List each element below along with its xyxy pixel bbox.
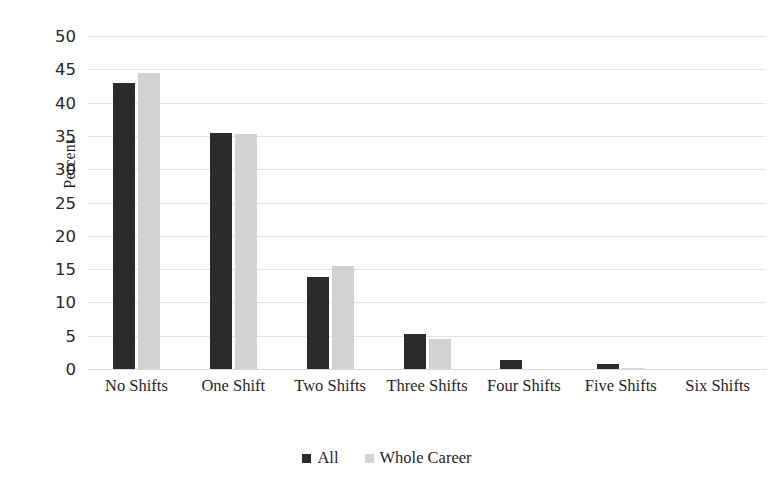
y-axis-tick-label: 20: [55, 226, 76, 245]
bar: [210, 133, 232, 369]
legend-label: All: [317, 448, 338, 468]
y-axis-tick-label: 0: [66, 360, 77, 379]
bar: [332, 266, 354, 369]
x-axis-tick-labels: No ShiftsOne ShiftTwo ShiftsThree Shifts…: [88, 376, 766, 436]
bar: [404, 334, 426, 369]
y-axis-tick-label: 15: [55, 260, 76, 279]
y-axis-tick-labels: 05101520253035404550: [0, 0, 88, 485]
legend-swatch-icon: [365, 454, 374, 463]
bar-groups: [88, 36, 766, 369]
y-axis-tick-label: 35: [55, 126, 76, 145]
legend-item[interactable]: All: [302, 448, 338, 468]
bar-group: [88, 36, 185, 369]
y-axis-tick-label: 10: [55, 293, 76, 312]
x-axis-tick-label: One Shift: [185, 376, 282, 436]
bar-group: [185, 36, 282, 369]
bar-group: [379, 36, 476, 369]
bar: [622, 368, 644, 369]
x-axis-tick-label: Three Shifts: [379, 376, 476, 436]
y-axis-tick-label: 45: [55, 60, 76, 79]
x-axis-tick-label: No Shifts: [88, 376, 185, 436]
y-axis-tick-label: 30: [55, 160, 76, 179]
y-axis-tick-label: 40: [55, 93, 76, 112]
legend-swatch-icon: [302, 454, 311, 463]
y-axis-tick-label: 50: [55, 27, 76, 46]
axis-baseline: [88, 369, 766, 370]
bar-group: [669, 36, 766, 369]
bar-group: [282, 36, 379, 369]
bar: [307, 277, 329, 369]
x-axis-tick-label: Four Shifts: [475, 376, 572, 436]
x-axis-tick-label: Five Shifts: [572, 376, 669, 436]
bar: [138, 73, 160, 369]
bar: [500, 360, 522, 369]
bar-group: [572, 36, 669, 369]
bar: [597, 364, 619, 369]
bar-chart: Percent 05101520253035404550 No ShiftsOn…: [0, 0, 774, 485]
bar: [429, 339, 451, 369]
x-axis-tick-label: Six Shifts: [669, 376, 766, 436]
chart-legend: AllWhole Career: [0, 448, 774, 468]
bar-group: [475, 36, 572, 369]
legend-label: Whole Career: [380, 448, 472, 468]
y-axis-tick-label: 5: [66, 326, 77, 345]
x-axis-tick-label: Two Shifts: [282, 376, 379, 436]
plot-area: [88, 36, 766, 369]
bar: [113, 83, 135, 369]
bar: [235, 134, 257, 369]
y-axis-tick-label: 25: [55, 193, 76, 212]
legend-item[interactable]: Whole Career: [365, 448, 472, 468]
